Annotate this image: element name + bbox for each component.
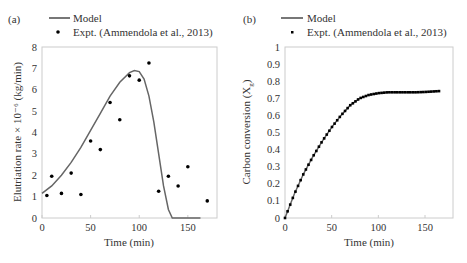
y-tick-label: 4 (32, 127, 38, 138)
data-point (69, 171, 73, 175)
x-tick-label: 150 (180, 222, 196, 233)
data-point (284, 217, 287, 220)
y-tick-label: 7 (32, 63, 37, 74)
data-point (417, 91, 420, 94)
data-point (427, 90, 430, 93)
model-line-a (42, 71, 200, 218)
data-point (396, 91, 399, 94)
data-point (388, 91, 391, 94)
data-point (310, 159, 313, 162)
data-point (393, 91, 396, 94)
data-point (406, 91, 409, 94)
x-axis-label-a: Time (min) (104, 236, 154, 249)
data-point (331, 126, 334, 129)
y-tick-label: 3 (32, 148, 37, 159)
data-point (318, 145, 321, 148)
panel-a-label: (a) (8, 13, 21, 26)
data-point (362, 96, 365, 99)
data-point (341, 113, 344, 116)
legend-expt-marker (56, 30, 60, 34)
data-point (346, 107, 349, 110)
data-point (45, 194, 49, 198)
plot-area-b (285, 47, 453, 218)
y-tick-label: 8 (32, 42, 37, 53)
data-point (419, 91, 422, 94)
data-point (307, 163, 310, 166)
legend-model-label: Model (73, 12, 102, 24)
data-point (157, 189, 161, 193)
x-axis-label-b: Time (min) (344, 236, 394, 249)
data-point (89, 139, 93, 143)
data-point (118, 118, 122, 122)
data-point (435, 90, 438, 93)
data-point (414, 91, 417, 94)
data-point (323, 137, 326, 140)
model-line-b (285, 91, 439, 218)
panel-b-label: (b) (243, 13, 256, 26)
data-point (409, 91, 412, 94)
y-tick-label: 0.2 (267, 178, 280, 189)
x-tick-label: 0 (282, 222, 287, 233)
data-point (312, 154, 315, 157)
x-tick-label: 50 (326, 222, 337, 233)
y-tick-label: 0.4 (267, 144, 281, 155)
data-point (370, 93, 373, 96)
data-point (147, 61, 151, 65)
data-point (432, 90, 435, 93)
data-point (380, 92, 383, 95)
x-tick-label: 100 (131, 222, 147, 233)
data-point (299, 179, 302, 182)
y-tick-label: 0.9 (267, 59, 280, 70)
y-tick-label: 6 (32, 84, 37, 95)
data-point (333, 122, 336, 125)
data-point (186, 165, 190, 169)
data-point (305, 168, 308, 171)
data-point (176, 184, 180, 188)
x-tick-label: 100 (370, 222, 386, 233)
data-point (60, 192, 64, 196)
y-tick-label: 0.3 (267, 161, 280, 172)
legend-model-label: Model (307, 12, 336, 24)
data-point (357, 98, 360, 101)
chart-svg: (a) Model Expt. (Ammendola et al., 2013)… (0, 0, 467, 263)
y-axis-label-a: Elutriation rate × 10⁻⁶ (kg/min) (11, 62, 24, 202)
data-point (339, 116, 342, 119)
data-point (425, 91, 428, 94)
data-point (349, 104, 352, 107)
x-tick-label: 150 (417, 222, 433, 233)
data-point (422, 91, 425, 94)
y-axis-label-b: Carbon conversion (Xg) (240, 79, 255, 184)
y-tick-label: 0.5 (267, 127, 280, 138)
data-point (320, 141, 323, 144)
data-point (367, 94, 370, 97)
panel-a: (a) Model Expt. (Ammendola et al., 2013)… (8, 12, 217, 249)
y-tick-label: 0.7 (267, 93, 280, 104)
legend-expt-label: Expt. (Ammendola et al., 2013) (307, 26, 447, 39)
data-point (297, 185, 300, 188)
legend-expt-label: Expt. (Ammendola et al., 2013) (73, 26, 213, 39)
y-tick-label: 0.6 (267, 110, 280, 121)
data-point (294, 190, 297, 193)
figure: (a) Model Expt. (Ammendola et al., 2013)… (0, 0, 467, 263)
data-point (325, 133, 328, 136)
y-tick-label: 0.1 (267, 195, 280, 206)
data-point (292, 197, 295, 200)
y-tick-label: 1 (275, 42, 280, 53)
legend-expt-marker (291, 31, 294, 34)
y-tick-label: 2 (32, 170, 37, 181)
data-point (354, 100, 357, 103)
y-tick-label: 0.8 (267, 76, 280, 87)
data-point (286, 210, 289, 213)
data-point (315, 150, 318, 153)
data-point (378, 92, 381, 95)
data-point (430, 90, 433, 93)
data-point (359, 97, 362, 100)
data-point (401, 91, 404, 94)
data-point (399, 91, 402, 94)
y-tick-label: 0 (275, 213, 280, 224)
data-point (336, 119, 339, 122)
data-point (328, 129, 331, 132)
data-point (108, 101, 112, 105)
data-point (79, 193, 83, 197)
data-point (137, 78, 141, 82)
